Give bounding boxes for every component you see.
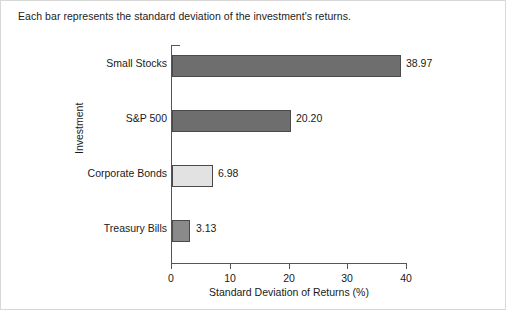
chart-caption: Each bar represents the standard deviati… bbox=[18, 10, 478, 23]
category-label-sp500: S&P 500 bbox=[17, 112, 167, 124]
x-tick-30 bbox=[347, 264, 348, 269]
category-axis-labels: Small Stocks S&P 500 Corporate Bonds Tre… bbox=[15, 45, 167, 264]
bar-value-corporate-bonds: 6.98 bbox=[218, 167, 238, 179]
bar-series: 38.97 20.20 6.98 3.13 bbox=[172, 45, 407, 264]
x-tick-0 bbox=[171, 264, 172, 269]
chart-screenshot: Each bar represents the standard deviati… bbox=[0, 0, 506, 310]
bar-row: 3.13 bbox=[172, 210, 407, 254]
x-tick-label-0: 0 bbox=[168, 272, 174, 284]
bar-row: 6.98 bbox=[172, 155, 407, 199]
bar-row: 20.20 bbox=[172, 100, 407, 144]
x-tick-20 bbox=[289, 264, 290, 269]
x-axis-title: Standard Deviation of Returns (%) bbox=[171, 286, 407, 298]
category-label-corporate-bonds: Corporate Bonds bbox=[17, 167, 167, 179]
bar-value-small-stocks: 38.97 bbox=[406, 57, 432, 69]
bar-row: 38.97 bbox=[172, 45, 407, 89]
plot-area: 38.97 20.20 6.98 3.13 bbox=[171, 45, 407, 264]
bar-value-sp500: 20.20 bbox=[296, 112, 322, 124]
bar-value-treasury-bills: 3.13 bbox=[196, 222, 216, 234]
bar-treasury-bills bbox=[172, 220, 190, 242]
category-label-small-stocks: Small Stocks bbox=[17, 57, 167, 69]
x-tick-label-30: 30 bbox=[341, 272, 353, 284]
bar-sp500 bbox=[172, 110, 291, 132]
x-tick-40 bbox=[406, 264, 407, 269]
x-tick-10 bbox=[230, 264, 231, 269]
x-tick-label-40: 40 bbox=[400, 272, 412, 284]
bar-chart: Small Stocks S&P 500 Corporate Bonds Tre… bbox=[1, 27, 506, 287]
bar-corporate-bonds bbox=[172, 165, 213, 187]
x-tick-label-10: 10 bbox=[224, 272, 236, 284]
y-axis-title: Investment bbox=[73, 103, 85, 154]
bar-small-stocks bbox=[172, 55, 401, 77]
x-tick-label-20: 20 bbox=[283, 272, 295, 284]
category-label-treasury-bills: Treasury Bills bbox=[17, 222, 167, 234]
